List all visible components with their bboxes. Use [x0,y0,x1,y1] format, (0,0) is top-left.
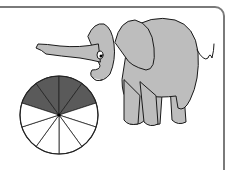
elephant-tail [197,44,214,59]
elephant-pupil [100,55,103,58]
elephant-trunk [36,44,100,62]
illustration [0,0,236,170]
pie-center-dot [57,113,60,116]
fraction-circle [20,76,98,154]
